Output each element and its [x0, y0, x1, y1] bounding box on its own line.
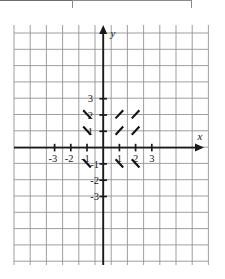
y-tick-label-pos2: 2 — [88, 110, 93, 121]
grid-lines — [14, 25, 208, 265]
slope-field-figure: -3 -2 -1 1 2 3 3 2 1 -1 -2 -3 y x — [0, 0, 225, 279]
x-tick-label-neg3: -3 — [49, 153, 58, 164]
y-axis-arrowhead — [99, 25, 107, 34]
x-tick-label-pos3: 3 — [149, 153, 154, 164]
y-tick-label-pos3: 3 — [88, 93, 93, 104]
x-tick-label-neg1: -1 — [81, 153, 90, 164]
x-tick-label-neg2: -2 — [65, 153, 74, 164]
x-tick-label-pos1: 1 — [117, 153, 122, 164]
y-axis-label: y — [110, 27, 116, 39]
y-tick-label-pos1: 1 — [88, 126, 93, 137]
coordinate-plane: -3 -2 -1 1 2 3 3 2 1 -1 -2 -3 y x — [0, 0, 225, 279]
x-axis-arrowhead — [195, 144, 204, 152]
x-tick-label-pos2: 2 — [133, 153, 138, 164]
x-axis-label: x — [197, 130, 203, 142]
y-tick-label-neg3: -3 — [90, 191, 99, 202]
y-tick-label-neg2: -2 — [90, 175, 99, 186]
y-tick-label-neg1: -1 — [90, 159, 99, 170]
